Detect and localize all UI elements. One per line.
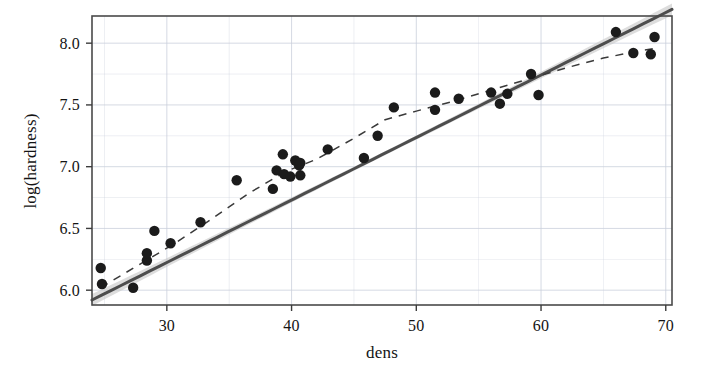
x-tick-label: 50 (408, 317, 424, 334)
data-point (646, 49, 656, 59)
canvas-background (0, 0, 703, 383)
data-point (526, 69, 536, 79)
data-point (128, 283, 138, 293)
data-point (96, 263, 106, 273)
y-tick-label: 6.5 (59, 220, 80, 237)
data-point (295, 170, 305, 180)
data-point (486, 87, 496, 97)
data-point (430, 87, 440, 97)
x-tick-label: 70 (658, 317, 674, 334)
data-point (142, 248, 152, 258)
data-point (389, 102, 399, 112)
data-point (278, 149, 288, 159)
data-point (97, 279, 107, 289)
data-point (533, 90, 543, 100)
data-point (430, 105, 440, 115)
x-tick-label: 30 (159, 317, 175, 334)
data-point (165, 238, 175, 248)
y-tick-label: 6.0 (59, 282, 80, 299)
data-point (649, 32, 659, 42)
data-point (628, 48, 638, 58)
data-point (454, 94, 464, 104)
data-point (231, 175, 241, 185)
x-tick-label: 40 (283, 317, 299, 334)
data-point (502, 89, 512, 99)
data-point (372, 131, 382, 141)
chart-figure: 3040506070 6.06.57.07.58.0 dens log(hard… (0, 0, 703, 383)
scatter-plot: 3040506070 6.06.57.07.58.0 dens log(hard… (0, 0, 703, 383)
data-point (323, 144, 333, 154)
data-point (295, 158, 305, 168)
y-axis-title: log(hardness) (21, 113, 40, 208)
y-tick-label: 7.0 (59, 158, 80, 175)
data-point (359, 153, 369, 163)
data-point (611, 27, 621, 37)
data-point (195, 217, 205, 227)
data-point (149, 226, 159, 236)
y-tick-label: 8.0 (59, 35, 80, 52)
y-tick-label: 7.5 (59, 96, 80, 113)
data-point (495, 98, 505, 108)
data-point (268, 184, 278, 194)
x-axis-title: dens (366, 343, 398, 362)
x-tick-label: 60 (533, 317, 549, 334)
data-point (285, 171, 295, 181)
